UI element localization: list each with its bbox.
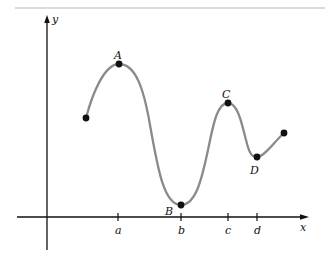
tick-label-a: a xyxy=(115,224,122,237)
x-axis-arrow-icon xyxy=(300,214,309,220)
point-label-c: C xyxy=(222,88,231,101)
y-axis: y xyxy=(44,13,59,250)
x-axis-label: x xyxy=(300,221,307,234)
point-label-b: B xyxy=(164,205,173,218)
tick-label-b: b xyxy=(178,224,185,237)
y-axis-label: y xyxy=(51,13,59,26)
end-point xyxy=(281,130,288,137)
y-axis-arrow-icon xyxy=(44,15,50,23)
tick-label-d: d xyxy=(254,224,261,237)
graph-figure: y x a b c d A B C D xyxy=(0,0,325,263)
x-axis: x xyxy=(17,214,309,234)
point-d xyxy=(254,154,261,161)
point-label-a: A xyxy=(113,49,122,62)
point-label-d: D xyxy=(249,164,259,177)
start-point xyxy=(83,115,90,122)
tick-label-c: c xyxy=(225,224,231,237)
function-curve xyxy=(86,64,284,205)
point-b xyxy=(178,202,185,209)
